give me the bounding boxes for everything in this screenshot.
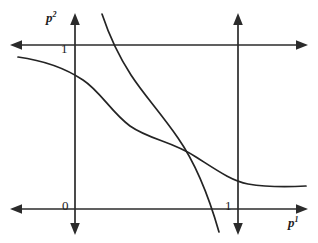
tick-label-x-unit: 1	[225, 199, 232, 212]
figure-canvas: p2 p1 1 0 1	[0, 0, 318, 243]
arrow-down-icon	[70, 223, 80, 235]
arrow-down-icon	[233, 223, 243, 235]
arrow-up-icon	[233, 13, 243, 25]
y-axis-label: p2	[46, 11, 57, 24]
horizontal-axis-p1	[10, 204, 308, 214]
arrow-up-icon	[70, 13, 80, 25]
arrow-left-icon	[10, 40, 22, 50]
curve-firm-1-best-response	[18, 57, 306, 187]
curve-firm-2-best-response	[102, 14, 219, 232]
vertical-axis-p2	[70, 13, 80, 235]
y-axis-label-superscript: 2	[53, 10, 57, 19]
tick-label-origin: 0	[62, 199, 69, 212]
arrow-right-icon	[296, 40, 308, 50]
x-axis-label: p1	[288, 216, 299, 229]
arrow-left-icon	[10, 204, 22, 214]
vertical-line-p1-equals-1	[233, 13, 243, 235]
horizontal-line-p2-equals-1	[10, 40, 308, 50]
arrow-right-icon	[296, 204, 308, 214]
best-response-curves-plot	[0, 0, 318, 243]
tick-label-y-unit: 1	[61, 42, 68, 55]
x-axis-label-superscript: 1	[295, 215, 299, 224]
